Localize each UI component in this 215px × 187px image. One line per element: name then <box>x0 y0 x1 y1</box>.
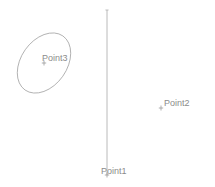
point1-label[interactable]: Point1 <box>101 167 127 176</box>
drawing-canvas[interactable]: Point3 Point2 Point1 <box>0 0 215 187</box>
point2-marker[interactable] <box>159 106 163 111</box>
point3-label[interactable]: Point3 <box>42 54 68 63</box>
vector-drawing-surface <box>0 0 215 187</box>
point2-label[interactable]: Point2 <box>164 99 190 108</box>
